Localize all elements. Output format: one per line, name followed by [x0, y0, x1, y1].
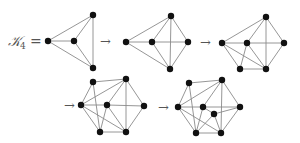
graph-vertex	[219, 77, 225, 83]
graph-edge	[152, 42, 170, 69]
graph-edge	[266, 17, 284, 43]
graph-vertex	[123, 129, 129, 135]
graph-edge	[107, 79, 126, 105]
graph-vertex	[149, 39, 155, 45]
graph-vertex	[104, 102, 110, 108]
graph-vertex	[90, 12, 96, 18]
graph-edge	[74, 41, 93, 68]
graph-edge	[189, 83, 196, 133]
graph-vertex	[71, 38, 77, 44]
graph-vertex	[244, 40, 250, 46]
graph-edge	[222, 43, 266, 69]
graph-edge	[107, 105, 126, 132]
graph-edge	[247, 43, 266, 69]
graph-vertex	[175, 104, 181, 110]
k4-label: 𝒦 4 =	[8, 33, 42, 51]
right-arrow-icon: →	[64, 98, 75, 113]
graph-vertex	[237, 104, 243, 110]
graph-edge	[222, 43, 240, 69]
graph-edge	[93, 82, 100, 132]
graph-vertex	[186, 80, 192, 86]
graph-2	[123, 13, 191, 72]
graph-vertex	[167, 66, 173, 72]
graph-4	[78, 76, 147, 135]
graph-vertex	[185, 39, 191, 45]
graph-edge	[170, 16, 171, 69]
graph-edge	[170, 42, 188, 69]
graph-edge	[222, 80, 240, 107]
graph-vertex	[263, 14, 269, 20]
subscript-label: 4	[20, 41, 26, 51]
graph-vertex	[168, 13, 174, 19]
graph-edge	[152, 16, 171, 42]
right-arrow-icon: →	[158, 100, 169, 115]
graph-edge	[222, 17, 266, 43]
graph-vertex	[281, 40, 287, 46]
graph-edge	[126, 42, 170, 69]
right-arrow-icon: →	[100, 34, 111, 49]
graph-edge	[266, 43, 284, 69]
graph-vertex	[90, 79, 96, 85]
graph-edge	[126, 79, 144, 106]
graph-edge	[240, 43, 247, 69]
graph-edge	[171, 16, 188, 42]
equals-sign: =	[30, 33, 42, 49]
graph-edge	[107, 105, 144, 106]
graph-vertex	[263, 66, 269, 72]
graph-vertex	[90, 65, 96, 71]
graph-vertex	[97, 129, 103, 135]
graph-edge	[74, 15, 93, 41]
graph-vertex	[141, 103, 147, 109]
graph-vertex	[45, 38, 51, 44]
graph-edge	[48, 15, 93, 41]
arrows: →→→→	[64, 34, 211, 115]
graphs	[45, 12, 287, 136]
graph-vertex	[219, 40, 225, 46]
graph-vertex	[123, 76, 129, 82]
graph-edge	[126, 106, 144, 132]
graph-edge	[126, 16, 171, 42]
graph-edge	[48, 41, 93, 68]
graph-vertex	[193, 130, 199, 136]
graph-vertex	[237, 66, 243, 72]
graph-5	[175, 77, 243, 136]
graph-edge	[221, 80, 222, 133]
graph-edge	[100, 105, 107, 132]
graph-edge	[203, 80, 222, 107]
graph-sequence-diagram: 𝒦 4 = →→→→	[0, 0, 300, 143]
graph-edge	[247, 17, 266, 43]
graph-vertex	[200, 104, 206, 110]
graph-3	[219, 14, 287, 72]
graph-1-K4	[45, 12, 96, 71]
graph-vertex	[211, 111, 217, 117]
graph-vertex	[78, 102, 84, 108]
right-arrow-icon: →	[200, 35, 211, 50]
graph-vertex	[123, 39, 129, 45]
graph-vertex	[218, 130, 224, 136]
